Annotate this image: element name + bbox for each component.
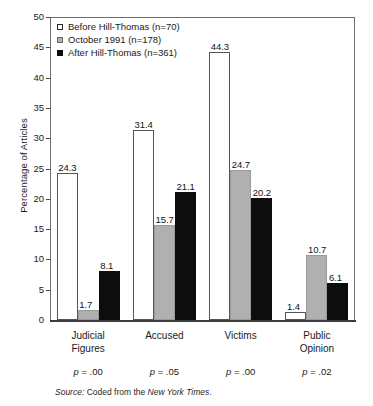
source-body: Coded from the	[84, 387, 147, 397]
p-value-text: = .05	[155, 366, 179, 377]
y-axis-tick-label: 20	[20, 194, 44, 204]
source-publication: New York Times	[148, 387, 210, 397]
bar	[209, 52, 230, 320]
p-value-label: p = .02	[279, 366, 355, 377]
legend-item: After Hill-Thomas (n=361)	[57, 46, 180, 59]
gray-square-swatch	[57, 37, 63, 43]
source-trailing: .	[209, 387, 211, 397]
bar	[154, 225, 175, 320]
bar	[99, 271, 120, 320]
y-axis-tick-label: 50	[20, 12, 44, 22]
category-label: JudicialFigures	[50, 330, 126, 355]
y-axis-tick-label: 15	[20, 224, 44, 234]
legend-item: October 1991 (n=178)	[57, 33, 180, 46]
y-axis-tick-label: 40	[20, 73, 44, 83]
x-axis-baseline	[50, 320, 356, 322]
y-axis-tick-label: 45	[20, 42, 44, 52]
bar	[306, 255, 327, 320]
y-axis-tick-label: 0	[20, 315, 44, 325]
black-square-swatch	[57, 50, 63, 56]
bar-value-label: 20.2	[252, 187, 272, 198]
category-label-line: Judicial	[50, 330, 126, 343]
bar	[327, 283, 348, 320]
y-axis-tick-label: 10	[20, 254, 44, 264]
category-label-line: Figures	[50, 343, 126, 356]
source-note: Source: Coded from the New York Times.	[55, 387, 212, 398]
bar-value-label: 24.7	[231, 159, 251, 170]
bar-value-label: 10.7	[307, 244, 327, 255]
bar-value-label: 44.3	[210, 41, 230, 52]
legend-item: Before Hill-Thomas (n=70)	[57, 20, 180, 33]
bar-value-label: 21.1	[176, 181, 196, 192]
legend-item-label: Before Hill-Thomas (n=70)	[68, 20, 180, 33]
bar-value-label: 6.1	[328, 272, 342, 283]
p-value-label: p = .00	[203, 366, 279, 377]
bar-value-label: 31.4	[134, 119, 154, 130]
bar	[251, 198, 272, 320]
category-label-line: Victims	[203, 330, 279, 343]
bar-value-label: 1.4	[286, 301, 300, 312]
bar	[175, 192, 196, 320]
y-axis-tick-label: 35	[20, 103, 44, 113]
category-label: Accused	[126, 330, 202, 343]
category-label: PublicOpinion	[279, 330, 355, 355]
bar	[57, 173, 78, 320]
category-label-line: Accused	[126, 330, 202, 343]
p-value-text: = .00	[231, 366, 255, 377]
p-value-text: = .00	[79, 366, 103, 377]
bar	[78, 310, 99, 320]
bar-chart-figure: Percentage of Articles 50454035302520151…	[0, 0, 373, 406]
bar-value-label: 24.3	[58, 162, 78, 173]
white-square-swatch	[57, 24, 63, 30]
category-label-line: Public	[279, 330, 355, 343]
bar	[230, 170, 251, 320]
y-axis-tick-label: 5	[20, 285, 44, 295]
bar-value-label: 1.7	[79, 299, 93, 310]
bar	[133, 130, 154, 320]
p-value-text: = .02	[308, 366, 332, 377]
y-axis-tick-label: 30	[20, 133, 44, 143]
legend-item-label: After Hill-Thomas (n=361)	[68, 46, 177, 59]
source-lead: Source:	[55, 387, 84, 397]
category-label-line: Opinion	[279, 343, 355, 356]
chart-legend: Before Hill-Thomas (n=70)October 1991 (n…	[57, 20, 180, 59]
bar	[285, 312, 306, 320]
bar-value-label: 8.1	[100, 260, 114, 271]
y-axis-tick-label: 25	[20, 164, 44, 174]
legend-item-label: October 1991 (n=178)	[68, 33, 161, 46]
bar-value-label: 15.7	[155, 214, 175, 225]
p-value-label: p = .05	[126, 366, 202, 377]
category-label: Victims	[203, 330, 279, 343]
p-value-label: p = .00	[50, 366, 126, 377]
